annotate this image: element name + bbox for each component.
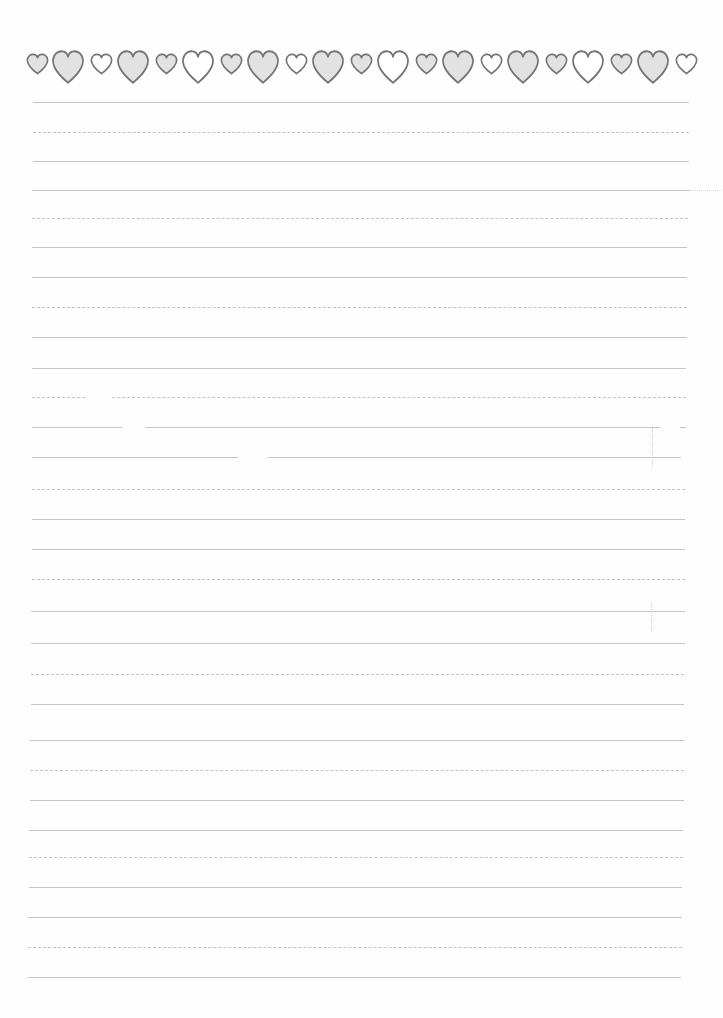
ruled-line xyxy=(32,549,685,550)
ruled-line xyxy=(33,161,689,162)
small-heart-icon xyxy=(26,53,49,75)
ruled-line xyxy=(32,218,688,219)
heart-border xyxy=(0,0,723,100)
big-heart-icon xyxy=(376,49,410,85)
scan-artifact-mark xyxy=(652,428,655,468)
small-heart-icon xyxy=(415,53,438,75)
stray-dotted-mark xyxy=(689,190,722,191)
ruled-line xyxy=(28,947,682,948)
ruled-line xyxy=(31,704,684,705)
big-heart-icon xyxy=(116,49,150,85)
big-heart-icon xyxy=(246,49,280,85)
small-heart-icon xyxy=(220,53,243,75)
ruled-line xyxy=(28,917,682,918)
small-heart-icon xyxy=(350,53,373,75)
scan-artifact-mark xyxy=(651,603,654,632)
ruled-line xyxy=(32,397,686,398)
big-heart-icon xyxy=(441,49,475,85)
ruled-line xyxy=(30,740,684,741)
lined-paper-page xyxy=(0,0,723,1018)
line-gap xyxy=(660,426,680,429)
ruled-line xyxy=(29,857,683,858)
ruled-line xyxy=(32,307,687,308)
ruled-line xyxy=(32,368,686,369)
ruled-line xyxy=(30,770,684,771)
small-heart-icon xyxy=(545,53,568,75)
ruled-line xyxy=(31,611,685,612)
ruled-line xyxy=(32,190,689,191)
big-heart-icon xyxy=(181,49,215,85)
line-gap xyxy=(122,426,145,429)
line-gap xyxy=(87,396,112,399)
ruled-line xyxy=(32,519,685,520)
ruled-line xyxy=(29,830,683,831)
small-heart-icon xyxy=(675,53,698,75)
ruled-line xyxy=(32,457,681,458)
ruled-line xyxy=(31,674,684,675)
ruled-line xyxy=(33,102,689,103)
small-heart-icon xyxy=(90,53,113,75)
big-heart-icon xyxy=(571,49,605,85)
big-heart-icon xyxy=(636,49,670,85)
ruled-line xyxy=(32,277,687,278)
small-heart-icon xyxy=(610,53,633,75)
ruled-line xyxy=(31,643,685,644)
small-heart-icon xyxy=(285,53,308,75)
ruled-line xyxy=(29,887,682,888)
big-heart-icon xyxy=(311,49,345,85)
small-heart-icon xyxy=(155,53,178,75)
big-heart-icon xyxy=(506,49,540,85)
ruled-line xyxy=(32,337,687,338)
ruled-line xyxy=(28,977,681,978)
ruled-line xyxy=(30,800,684,801)
ruled-line xyxy=(33,132,689,133)
big-heart-icon xyxy=(51,49,85,85)
line-gap xyxy=(238,456,268,459)
ruled-line xyxy=(32,579,685,580)
ruled-line xyxy=(32,247,687,248)
small-heart-icon xyxy=(480,53,503,75)
ruled-line xyxy=(32,489,685,490)
